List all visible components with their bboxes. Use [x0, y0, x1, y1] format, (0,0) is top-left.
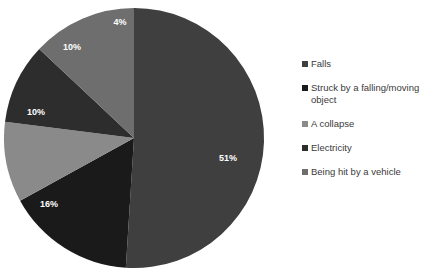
pie-slice-data-label: 10% — [27, 107, 45, 117]
legend-swatch-icon — [302, 85, 308, 91]
legend-item-label: Electricity — [311, 142, 352, 154]
legend-item[interactable]: Being hit by a vehicle — [302, 166, 441, 178]
legend-item[interactable]: Falls — [302, 58, 441, 70]
legend-swatch-icon — [302, 169, 308, 175]
legend-item[interactable]: Electricity — [302, 142, 441, 154]
pie-slice-data-label: 51% — [219, 153, 237, 163]
legend-item-label: Falls — [311, 58, 331, 70]
legend-swatch-icon — [302, 61, 308, 67]
legend-item-label: A collapse — [311, 118, 354, 130]
pie-slice-data-label: 16% — [40, 199, 58, 209]
pie-slice-group — [4, 8, 264, 268]
legend-item-label: Being hit by a vehicle — [311, 166, 401, 178]
pie-slice-data-label: 4% — [113, 17, 126, 27]
chart-legend: FallsStruck by a falling/moving objectA … — [302, 58, 441, 190]
pie-chart-figure: 51%16%10%10%4% FallsStruck by a falling/… — [0, 0, 441, 277]
legend-swatch-icon — [302, 145, 308, 151]
pie-slice[interactable] — [126, 8, 264, 268]
pie-slice-data-label: 10% — [63, 42, 81, 52]
legend-swatch-icon — [302, 121, 308, 127]
legend-item[interactable]: Struck by a falling/moving object — [302, 82, 441, 106]
pie-plot-area: 51%16%10%10%4% — [0, 0, 290, 277]
legend-item[interactable]: A collapse — [302, 118, 441, 130]
legend-item-label: Struck by a falling/moving object — [311, 82, 441, 106]
pie-svg: 51%16%10%10%4% — [0, 0, 290, 277]
